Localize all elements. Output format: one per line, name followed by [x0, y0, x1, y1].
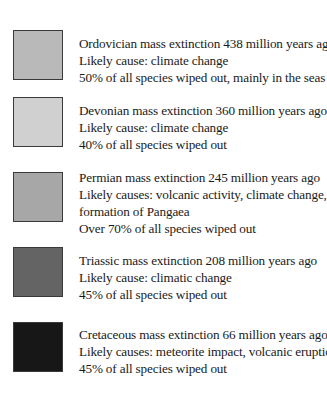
color-swatch-triassic	[13, 247, 63, 297]
legend-text-cretaceous: Cretaceous mass extinction 66 million ye…	[79, 326, 325, 377]
entry-impact: 45% of all species wiped out	[79, 286, 325, 303]
entry-title: Cretaceous mass extinction 66 million ye…	[79, 326, 325, 343]
entry-cause: Likely cause: climate change	[79, 119, 325, 136]
legend-text-devonian: Devonian mass extinction 360 million yea…	[79, 102, 325, 153]
entry-cause-continued: formation of Pangaea	[79, 203, 325, 220]
color-swatch-devonian	[13, 97, 63, 147]
entry-title: Ordovician mass extinction 438 million y…	[79, 35, 325, 52]
entry-cause: Likely cause: climatic change	[79, 269, 325, 286]
entry-impact: Over 70% of all species wiped out	[79, 220, 325, 237]
legend-text-triassic: Triassic mass extinction 208 million yea…	[79, 252, 325, 303]
entry-impact: 40% of all species wiped out	[79, 136, 325, 153]
entry-cause: Likely cause: climate change	[79, 52, 325, 69]
entry-impact: 50% of all species wiped out, mainly in …	[79, 69, 325, 86]
extinction-legend: Ordovician mass extinction 438 million y…	[0, 0, 327, 405]
entry-title: Permian mass extinction 245 million year…	[79, 169, 325, 186]
entry-cause: Likely causes: volcanic activity, climat…	[79, 186, 325, 203]
legend-text-permian: Permian mass extinction 245 million year…	[79, 169, 325, 237]
color-swatch-cretaceous	[13, 322, 63, 372]
entry-title: Triassic mass extinction 208 million yea…	[79, 252, 325, 269]
entry-cause: Likely causes: meteorite impact, volcani…	[79, 343, 325, 360]
entry-impact: 45% of all species wiped out	[79, 360, 325, 377]
entry-title: Devonian mass extinction 360 million yea…	[79, 102, 325, 119]
legend-text-ordovician: Ordovician mass extinction 438 million y…	[79, 35, 325, 86]
color-swatch-ordovician	[13, 30, 63, 80]
color-swatch-permian	[13, 172, 63, 222]
